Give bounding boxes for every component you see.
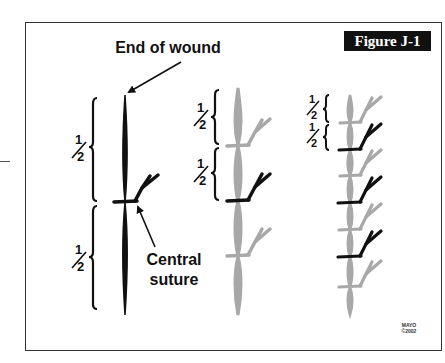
svg-text:2: 2 [199,117,206,132]
suture-gray-upper [227,119,270,146]
svg-text:2: 2 [199,173,206,188]
fraction-half-upper: 1 2 [72,132,86,164]
suture-gray-lower [227,229,270,256]
fraction-half-lower: 1 2 [307,121,319,149]
svg-text:2: 2 [77,149,84,164]
suture-gray-1 [340,97,381,123]
brace-upper [211,90,219,144]
brace-lower [323,125,329,150]
credit-line2: ©2002 [394,328,424,334]
wound-incision [348,95,353,315]
svg-text:1: 1 [309,93,315,105]
brace-upper [323,95,329,122]
callout-central-suture: Central suture [134,250,214,290]
suture-gray-7 [339,261,381,287]
fraction-half-upper: 1 2 [307,93,319,121]
figure-label: Figure J-1 [344,31,431,51]
svg-text:1: 1 [75,242,82,257]
brace-upper [89,98,97,201]
suture-black-4 [338,177,381,203]
wound-incision [123,95,128,315]
svg-text:2: 2 [311,109,317,121]
svg-text:1: 1 [197,156,204,171]
arrow-end-of-wound [129,62,181,92]
panel-step-3: 1 2 1 2 [307,93,381,315]
svg-text:1: 1 [309,121,315,133]
suture-black-6 [338,231,381,257]
arrow-central-suture [138,207,155,247]
brace-lower [89,206,97,309]
brace-lower [211,148,219,200]
fraction-half-upper: 1 2 [194,100,208,132]
svg-text:1: 1 [197,100,204,115]
fraction-half-lower: 1 2 [72,242,86,274]
suture-black-2 [339,124,381,150]
fraction-half-lower: 1 2 [194,156,208,188]
suture-black-middle [227,174,270,201]
callout-central-line1: Central [134,250,214,270]
svg-text:1: 1 [75,132,82,147]
suture-central [114,175,158,202]
callout-central-line2: suture [134,270,214,290]
suture-gray-3 [340,150,381,176]
svg-text:2: 2 [311,137,317,149]
callout-end-of-wound: End of wound [98,38,238,58]
suture-gray-5 [339,204,381,230]
svg-text:2: 2 [77,259,84,274]
copyright-credit: MAYO ©2002 [394,322,424,334]
